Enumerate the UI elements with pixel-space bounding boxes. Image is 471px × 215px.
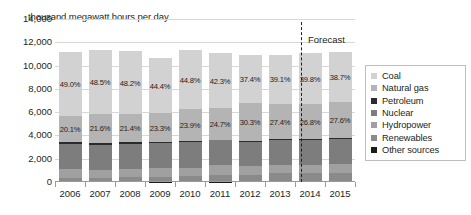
bar-segment-nuclear	[329, 139, 352, 164]
legend-swatch-icon	[371, 73, 377, 79]
y-axis-tick-label: 14,000	[0, 13, 52, 24]
bar-segment-nuclear	[239, 142, 262, 166]
bar-segment-natural-gas: 21.6%	[89, 114, 112, 143]
legend-swatch-icon	[371, 85, 377, 91]
y-axis-tick-labels: 14,00012,00010,0008,0006,0004,0002,0000	[0, 19, 52, 182]
bar-segment-nuclear	[149, 143, 172, 168]
bar-segment-coal: 42.3%	[209, 53, 232, 107]
x-axis-tick	[85, 182, 86, 187]
y-axis-tick-label: 0	[0, 176, 52, 187]
bar-2009[interactable]: 44.4%23.3%	[149, 58, 172, 182]
legend-swatch-icon	[371, 135, 377, 141]
segment-value-label: 42.3%	[210, 76, 231, 85]
x-axis-tick	[175, 182, 176, 187]
bar-segment-natural-gas: 21.4%	[119, 114, 142, 142]
bar-segment-coal: 37.4%	[239, 55, 262, 102]
x-axis-tick	[295, 182, 296, 187]
legend-item-renewables[interactable]: Renewables	[371, 131, 460, 143]
segment-value-label: 21.6%	[90, 124, 111, 133]
y-axis-tick-label: 8,000	[0, 83, 52, 94]
bar-segment-natural-gas: 27.4%	[269, 104, 292, 139]
x-axis-label-2013: 2013	[263, 188, 297, 199]
x-axis-tick	[55, 182, 56, 187]
bar-segment-natural-gas: 27.6%	[329, 102, 352, 138]
legend-label: Natural gas	[382, 83, 428, 93]
chart-legend: CoalNatural gasPetroleumNuclearHydropowe…	[365, 65, 466, 161]
segment-value-label: 39.1%	[270, 75, 291, 84]
y-axis-tick-label: 10,000	[0, 60, 52, 71]
legend-label: Other sources	[382, 145, 439, 155]
legend-item-petroleum[interactable]: Petroleum	[371, 95, 460, 107]
legend-swatch-icon	[371, 147, 377, 153]
legend-label: Renewables	[382, 133, 432, 143]
x-axis-tick	[205, 182, 206, 187]
segment-value-label: 20.1%	[60, 124, 81, 133]
x-axis-tick	[265, 182, 266, 187]
bar-segment-coal: 38.7%	[329, 52, 352, 102]
x-axis-tick	[355, 182, 356, 187]
bar-segment-nuclear	[209, 140, 232, 165]
segment-value-label: 23.9%	[180, 121, 201, 130]
bar-2013[interactable]: 39.1%27.4%	[269, 55, 292, 182]
bar-segment-natural-gas: 23.3%	[149, 113, 172, 142]
legend-swatch-icon	[371, 122, 377, 128]
legend-label: Petroleum	[382, 96, 423, 106]
legend-item-natural-gas[interactable]: Natural gas	[371, 82, 460, 94]
bar-segment-hydropower	[149, 168, 172, 177]
bar-segment-hydropower	[269, 165, 292, 173]
bar-2010[interactable]: 44.8%23.9%	[179, 50, 202, 182]
forecast-label: Forecast	[308, 34, 345, 45]
segment-value-label: 26.8%	[300, 117, 321, 126]
y-axis-tick-label: 4,000	[0, 129, 52, 140]
segment-value-label: 27.6%	[330, 116, 351, 125]
segment-value-label: 38.7%	[330, 72, 351, 81]
x-axis-ticks	[55, 182, 355, 187]
x-axis-label-2015: 2015	[323, 188, 357, 199]
legend-item-other-sources[interactable]: Other sources	[371, 144, 460, 156]
segment-value-label: 30.3%	[240, 117, 261, 126]
x-axis-label-2008: 2008	[113, 188, 147, 199]
bar-2011[interactable]: 42.3%24.7%	[209, 53, 232, 182]
bar-segment-coal: 39.1%	[269, 55, 292, 105]
legend-item-coal[interactable]: Coal	[371, 70, 460, 82]
segment-value-label: 48.2%	[120, 78, 141, 87]
bar-segment-coal: 44.4%	[149, 58, 172, 113]
segment-value-label: 27.4%	[270, 117, 291, 126]
bar-segment-natural-gas: 30.3%	[239, 103, 262, 141]
x-axis-label-2014: 2014	[293, 188, 327, 199]
bar-segment-coal: 44.8%	[179, 50, 202, 109]
legend-swatch-icon	[371, 98, 377, 104]
x-axis-label-2012: 2012	[233, 188, 267, 199]
bar-segment-nuclear	[269, 140, 292, 165]
x-axis-tick	[115, 182, 116, 187]
y-axis-tick-label: 12,000	[0, 36, 52, 47]
segment-value-label: 23.3%	[150, 123, 171, 132]
bar-2015[interactable]: 38.7%27.6%	[329, 52, 352, 182]
x-axis-label-2011: 2011	[203, 188, 237, 199]
segment-value-label: 24.7%	[210, 119, 231, 128]
bar-segment-hydropower	[329, 164, 352, 173]
segment-value-label: 44.8%	[180, 75, 201, 84]
bar-2006[interactable]: 49.0%20.1%	[59, 52, 82, 182]
legend-label: Hydropower	[382, 120, 431, 130]
bar-segment-hydropower	[239, 166, 262, 175]
bar-segment-nuclear	[89, 145, 112, 171]
x-axis-tick	[325, 182, 326, 187]
bar-segment-hydropower	[119, 169, 142, 177]
bar-segment-natural-gas: 24.7%	[209, 108, 232, 140]
x-axis-label-2006: 2006	[53, 188, 87, 199]
bar-segment-nuclear	[59, 144, 82, 169]
bar-segment-hydropower	[89, 170, 112, 178]
bar-2007[interactable]: 48.5%21.6%	[89, 50, 112, 182]
segment-value-label: 21.4%	[120, 124, 141, 133]
legend-swatch-icon	[371, 110, 377, 116]
y-axis-tick-label: 6,000	[0, 106, 52, 117]
legend-item-nuclear[interactable]: Nuclear	[371, 107, 460, 119]
segment-value-label: 48.5%	[90, 77, 111, 86]
legend-item-hydropower[interactable]: Hydropower	[371, 119, 460, 131]
bar-segment-natural-gas: 20.1%	[59, 116, 82, 142]
bar-2012[interactable]: 37.4%30.3%	[239, 55, 262, 182]
legend-label: Coal	[382, 71, 401, 81]
bar-2008[interactable]: 48.2%21.4%	[119, 51, 142, 182]
x-axis-tick	[145, 182, 146, 187]
